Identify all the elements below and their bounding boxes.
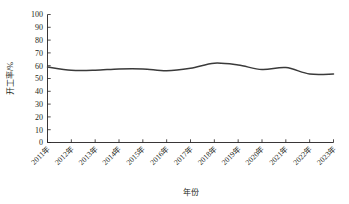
y-tick-label: 90 [35, 23, 43, 32]
y-tick-label: 30 [35, 100, 43, 109]
y-tick-label: 60 [35, 62, 43, 71]
x-tick-label: 2017年 [171, 143, 194, 166]
chart-figure: 0102030405060708090100 2011年2012年2013年20… [0, 0, 349, 204]
y-axis-tick-marks [48, 15, 51, 143]
y-tick-label: 80 [35, 36, 43, 45]
y-axis-title: 开工率/% [5, 62, 15, 95]
y-tick-label: 40 [35, 87, 43, 96]
y-tick-label: 50 [35, 74, 43, 83]
x-tick-label: 2020年 [243, 143, 266, 166]
x-tick-label: 2022年 [291, 143, 314, 166]
x-tick-label: 2014年 [100, 143, 123, 166]
x-tick-label: 2016年 [148, 143, 171, 166]
y-tick-label: 100 [31, 10, 43, 19]
x-tick-label: 2012年 [52, 143, 75, 166]
x-tick-label: 2013年 [76, 143, 99, 166]
data-series-line [48, 63, 334, 74]
x-tick-label: 2015年 [124, 143, 147, 166]
x-tick-label: 2018年 [195, 143, 218, 166]
y-tick-label: 10 [35, 126, 43, 135]
y-tick-label: 70 [35, 49, 43, 58]
x-tick-label: 2021年 [267, 143, 290, 166]
x-axis-tick-marks [48, 139, 334, 142]
x-tick-label: 2023年 [314, 143, 337, 166]
x-tick-label: 2019年 [219, 143, 242, 166]
x-axis-tick-labels: 2011年2012年2013年2014年2015年2016年2017年2018年… [29, 143, 338, 166]
y-axis-tick-labels: 0102030405060708090100 [31, 10, 43, 147]
line-chart: 0102030405060708090100 2011年2012年2013年20… [0, 0, 349, 204]
x-axis-title: 年份 [183, 187, 199, 197]
y-tick-label: 20 [35, 113, 43, 122]
